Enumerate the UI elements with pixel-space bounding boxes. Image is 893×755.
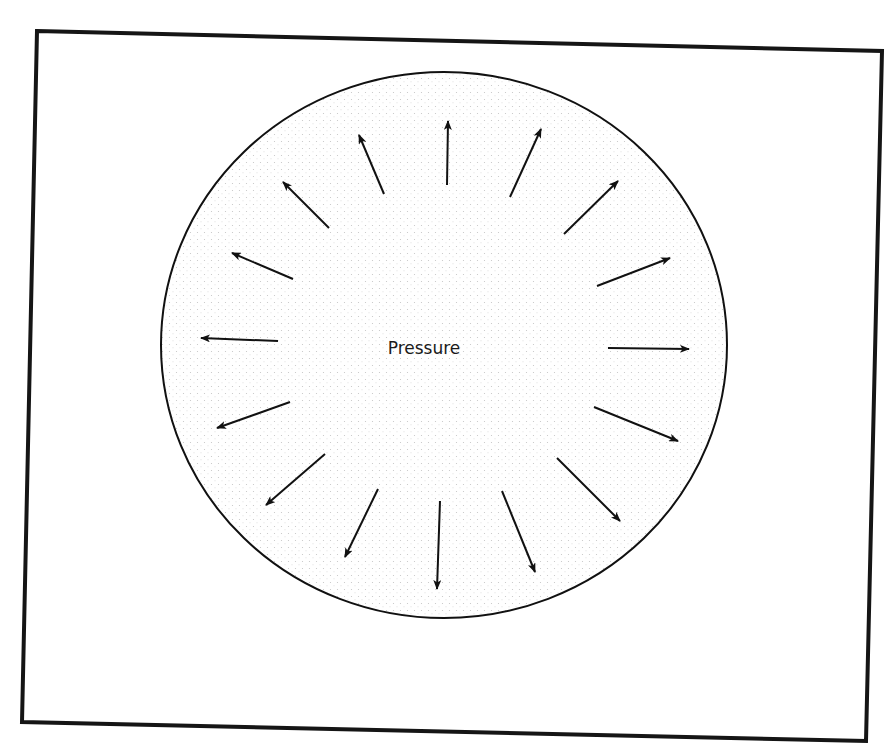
pressure-arrow-n-icon bbox=[447, 121, 448, 185]
pressure-label: Pressure bbox=[388, 338, 461, 358]
pressure-arrow-e-icon bbox=[608, 348, 689, 349]
pressure-diagram: Pressure bbox=[0, 0, 893, 755]
